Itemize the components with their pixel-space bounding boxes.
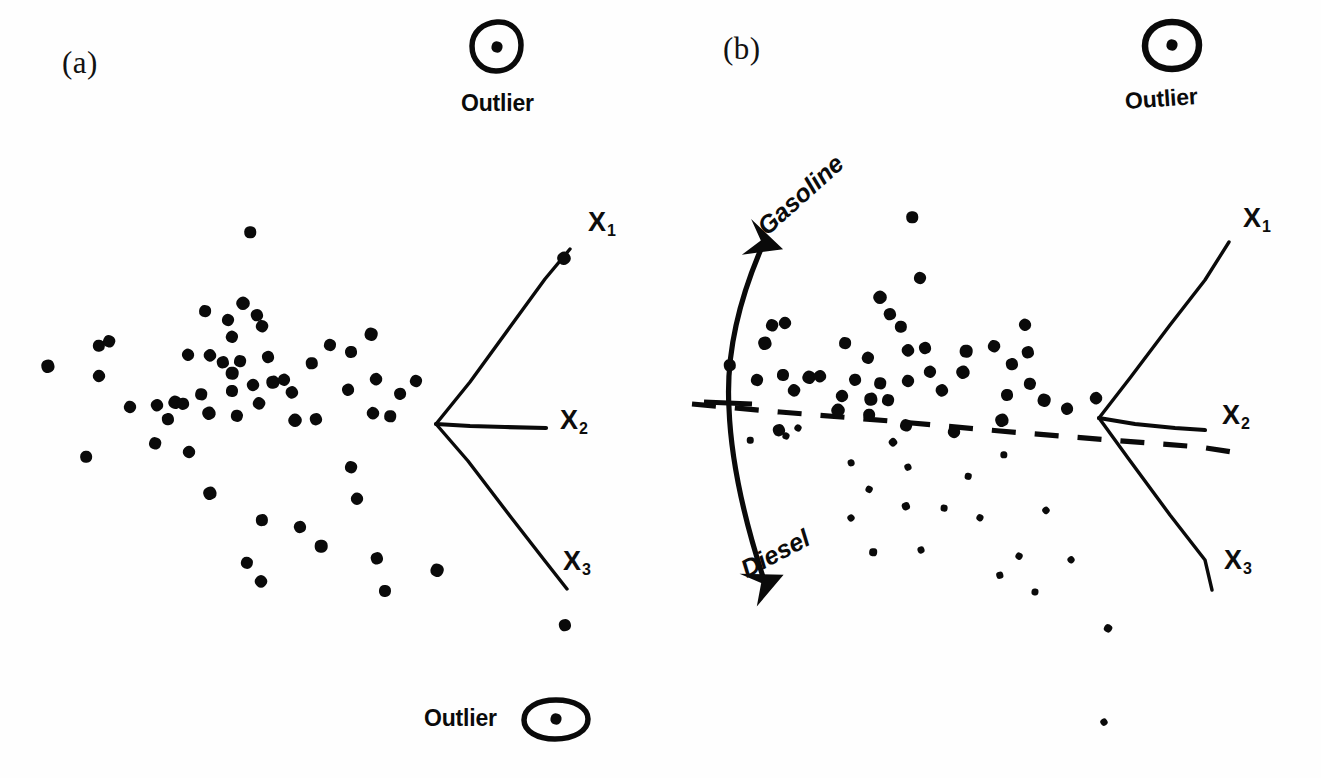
axis-label-x2-b: X2: [1222, 400, 1249, 431]
axis-label-x2-b-sub: 2: [1241, 415, 1250, 432]
data-point: [873, 376, 886, 389]
data-point: [940, 504, 947, 511]
data-point: [906, 211, 918, 223]
data-point: [315, 540, 328, 553]
axis-label-x3-a: X3: [563, 546, 590, 577]
figure-canvas: (a) X1 X2 X3 Outlier Outlier (b): [0, 0, 1321, 778]
axis-ray-x3-b: [1099, 418, 1212, 590]
data-point: [839, 337, 852, 350]
panel-b-strokes: [660, 0, 1321, 778]
axis-label-x3-b-text: X: [1224, 545, 1242, 575]
panel-a-strokes: [0, 0, 660, 778]
arrow-crossing-tick: [704, 402, 752, 404]
panel-b: (b) X1: [660, 0, 1321, 778]
outlier-label-top-b: Outlier: [1124, 83, 1198, 115]
axis-label-x2-a-text: X: [560, 405, 578, 435]
axis-label-x2-a-sub: 2: [579, 420, 588, 437]
data-point: [959, 344, 973, 358]
outlier-label-top-a: Outlier: [461, 90, 534, 117]
axis-ray-x2-b: [1099, 418, 1205, 430]
axis-label-x3-a-sub: 3: [582, 561, 591, 578]
axis-label-x2-a: X2: [560, 405, 587, 436]
data-point: [379, 585, 392, 598]
axis-ray-x1-a: [436, 249, 570, 424]
data-point: [194, 387, 207, 400]
axis-label-x1-b: X1: [1243, 203, 1270, 234]
axis-label-x1-b-text: X: [1243, 203, 1261, 233]
axis-label-x3-a-text: X: [563, 546, 581, 576]
data-point: [244, 226, 256, 238]
data-point: [199, 305, 212, 318]
axis-label-x3-b-sub: 3: [1243, 560, 1252, 577]
data-point: [306, 357, 318, 369]
data-point: [747, 437, 754, 444]
data-point: [964, 472, 972, 480]
axis-ray-x2-a: [436, 424, 546, 428]
data-point: [384, 410, 396, 422]
axis-label-x1-a-text: X: [588, 207, 606, 237]
data-point: [724, 359, 736, 371]
axis-label-x1-b-sub: 1: [1262, 218, 1271, 235]
axis-ray-x3-a: [436, 424, 567, 589]
axis-label-x1-a-sub: 1: [607, 222, 616, 239]
axis-label-x2-b-text: X: [1222, 400, 1240, 430]
outlier-label-bottom-a: Outlier: [424, 705, 497, 732]
axis-label-x3-b: X3: [1224, 545, 1251, 576]
axis-label-x1-a: X1: [588, 207, 615, 238]
axis-ray-x1-b: [1099, 242, 1229, 418]
data-point: [869, 548, 877, 556]
data-point: [225, 366, 239, 380]
panel-a: (a) X1 X2 X3 Outlier Outlier: [0, 0, 660, 778]
data-point: [256, 514, 268, 526]
